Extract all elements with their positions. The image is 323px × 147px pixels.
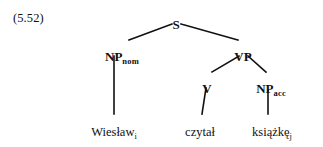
tree-terminal-wieslaw: Wiesławi [91,126,137,139]
tree-edge-s-to-np-nom [129,24,172,40]
tree-terminal-word: czytał [185,125,215,139]
tree-node-label: NP [256,81,273,96]
tree-node-label: NP [105,49,122,64]
tree-terminal-word: Wiesław [91,125,134,139]
tree-terminal-czytal: czytał [185,126,215,139]
tree-node-np-acc: NPacc [256,80,286,96]
tree-terminal-word: książkę [252,125,289,139]
tree-terminal-index-subscript: i [134,131,136,141]
tree-node-s: S [172,16,179,32]
syntax-tree-figure: (5.52) SNPnomVPVNPaccWiesławiczytałksiąż… [0,0,323,147]
tree-node-case-subscript: nom [122,56,139,66]
tree-terminal-ksiazke: książkęj [252,126,292,139]
tree-node-v: V [202,80,211,96]
tree-node-label: S [172,17,179,32]
tree-node-vp: VP [234,48,251,64]
tree-edge-s-to-vp [181,24,238,40]
tree-node-case-subscript: acc [273,88,285,98]
tree-node-label: V [202,81,211,96]
tree-node-np-nom: NPnom [105,48,139,64]
tree-node-label: VP [234,49,251,64]
tree-terminal-index-subscript: j [290,131,292,141]
